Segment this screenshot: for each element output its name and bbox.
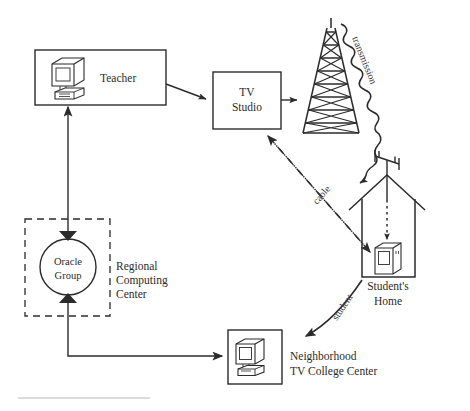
desktop-computer-icon bbox=[52, 58, 84, 99]
teacher-label: Teacher bbox=[100, 72, 136, 84]
oracle-group-label-line1: Oracle bbox=[54, 256, 82, 267]
node-regional-center[interactable]: Oracle Group Regional Computing Center bbox=[25, 219, 168, 316]
students-home-label-line2: Home bbox=[374, 295, 402, 307]
tv-studio-label-line1: TV bbox=[239, 86, 255, 98]
edge-teacher-to-studio bbox=[166, 84, 206, 99]
node-tv-studio[interactable]: TV Studio bbox=[213, 72, 281, 129]
network-diagram: Teacher TV Studio bbox=[0, 0, 470, 411]
node-teacher[interactable]: Teacher bbox=[35, 50, 166, 105]
node-neighborhood-center[interactable]: Neighborhood TV College Center bbox=[228, 330, 377, 384]
transmission-label: transmission bbox=[350, 35, 379, 86]
neighborhood-label-line2: TV College Center bbox=[290, 365, 377, 378]
broadcast-tower-icon bbox=[303, 18, 359, 133]
desktop-computer-icon bbox=[236, 339, 264, 376]
student-label: student bbox=[330, 292, 355, 322]
regional-center-label-line1: Regional bbox=[116, 260, 158, 273]
regional-center-label-line3: Center bbox=[116, 288, 147, 300]
oracle-group-label-line2: Group bbox=[55, 270, 82, 281]
cable-label: cable bbox=[310, 183, 333, 207]
edge-oracle-to-neighborhood bbox=[68, 303, 222, 356]
students-home-label-line1: Student's bbox=[367, 280, 409, 292]
television-set-icon bbox=[375, 243, 401, 274]
neighborhood-label-line1: Neighborhood bbox=[290, 350, 357, 363]
oracle-group-circle bbox=[40, 239, 96, 295]
tv-studio-label-line2: Studio bbox=[232, 101, 262, 113]
regional-center-label-line2: Computing bbox=[116, 274, 168, 287]
diagram-canvas: Teacher TV Studio bbox=[0, 0, 470, 411]
